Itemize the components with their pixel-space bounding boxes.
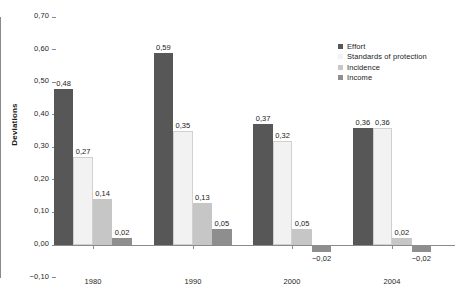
legend-swatch-icon bbox=[338, 75, 343, 80]
bar-value-label: 0,36 bbox=[355, 118, 370, 127]
x-axis-label: 2000 bbox=[262, 277, 322, 286]
bar bbox=[392, 238, 412, 245]
bar bbox=[212, 229, 232, 245]
bar bbox=[253, 124, 273, 245]
legend-label: Income bbox=[347, 73, 372, 82]
y-axis-tick: 0,70 bbox=[0, 17, 56, 18]
bar-value-label: −0,02 bbox=[312, 254, 331, 263]
x-axis-label: 2004 bbox=[362, 277, 422, 286]
y-axis-tick: 0,30 bbox=[0, 147, 56, 148]
legend-item: Standards of protection bbox=[338, 52, 468, 63]
y-axis-tick: 0,20 bbox=[0, 180, 56, 181]
y-axis-tick: 0,50 bbox=[0, 82, 56, 83]
bar-chart: Deviations 0,700,600,500,400,300,200,100… bbox=[0, 0, 472, 301]
bar-value-label: 0,05 bbox=[214, 219, 229, 228]
legend-item: Income bbox=[338, 73, 468, 84]
bar-value-label: 0,32 bbox=[275, 131, 290, 140]
y-axis-tick: 0,10 bbox=[0, 212, 56, 213]
y-tick-mark bbox=[52, 277, 56, 278]
chart-legend: EffortStandards of protectionIncidenceIn… bbox=[338, 41, 468, 83]
bar-value-label: 0,59 bbox=[156, 43, 171, 52]
x-tick-mark bbox=[392, 246, 393, 249]
bar bbox=[353, 128, 373, 245]
bar bbox=[373, 128, 393, 245]
bar bbox=[173, 131, 193, 245]
y-axis-tick: −0,10 bbox=[0, 278, 56, 279]
bar bbox=[154, 53, 174, 245]
x-tick-mark bbox=[292, 246, 293, 249]
y-tick-label: 0,70 bbox=[34, 11, 49, 20]
bar-value-label: 0,02 bbox=[115, 228, 130, 237]
legend-label: Incidence bbox=[347, 63, 380, 72]
x-axis-label: 1980 bbox=[63, 277, 123, 286]
legend-item: Effort bbox=[338, 41, 468, 52]
y-tick-label: 0,10 bbox=[34, 206, 49, 215]
y-tick-label: 0,00 bbox=[34, 239, 49, 248]
bar-value-label: 0,05 bbox=[295, 219, 310, 228]
bar bbox=[312, 245, 332, 252]
bar-value-label: −0,02 bbox=[412, 254, 431, 263]
legend-label: Standards of protection bbox=[347, 52, 427, 61]
bar bbox=[112, 238, 132, 245]
x-axis-label: 1990 bbox=[163, 277, 223, 286]
bar bbox=[412, 245, 432, 252]
y-tick-label: 0,60 bbox=[34, 44, 49, 53]
y-tick-mark bbox=[52, 49, 56, 50]
bar bbox=[54, 89, 74, 245]
y-axis-tick: 0,60 bbox=[0, 50, 56, 51]
y-tick-label: 0,30 bbox=[34, 141, 49, 150]
legend-swatch-icon bbox=[338, 65, 343, 70]
bar-value-label: 0,36 bbox=[375, 118, 390, 127]
y-tick-mark bbox=[52, 17, 56, 18]
y-tick-label: 0,50 bbox=[34, 76, 49, 85]
zero-baseline bbox=[56, 245, 455, 246]
legend-item: Incidence bbox=[338, 62, 468, 73]
y-axis-tick: 0,40 bbox=[0, 115, 56, 116]
bar-value-label: 0,37 bbox=[256, 114, 271, 123]
bar bbox=[273, 141, 293, 245]
legend-swatch-icon bbox=[338, 54, 343, 59]
bar-value-label: 0,14 bbox=[95, 189, 110, 198]
bar bbox=[73, 157, 93, 245]
x-tick-mark bbox=[93, 246, 94, 249]
y-tick-label: −0,10 bbox=[30, 272, 49, 281]
y-tick-label: 0,20 bbox=[34, 174, 49, 183]
y-axis-tick: 0,00 bbox=[0, 245, 56, 246]
bar-value-label: 0,27 bbox=[76, 147, 91, 156]
bar-value-label: 0,13 bbox=[195, 193, 210, 202]
x-tick-mark bbox=[193, 246, 194, 249]
bar-value-label: 0,35 bbox=[175, 121, 190, 130]
bar bbox=[193, 203, 213, 245]
bar-value-label: 0,02 bbox=[394, 228, 409, 237]
bar-value-label: 0,48 bbox=[56, 79, 71, 88]
legend-label: Effort bbox=[347, 42, 365, 51]
y-axis-title: Deviations bbox=[10, 80, 19, 170]
bar bbox=[93, 199, 113, 245]
legend-swatch-icon bbox=[338, 44, 343, 49]
y-tick-label: 0,40 bbox=[34, 109, 49, 118]
bar bbox=[292, 229, 312, 245]
